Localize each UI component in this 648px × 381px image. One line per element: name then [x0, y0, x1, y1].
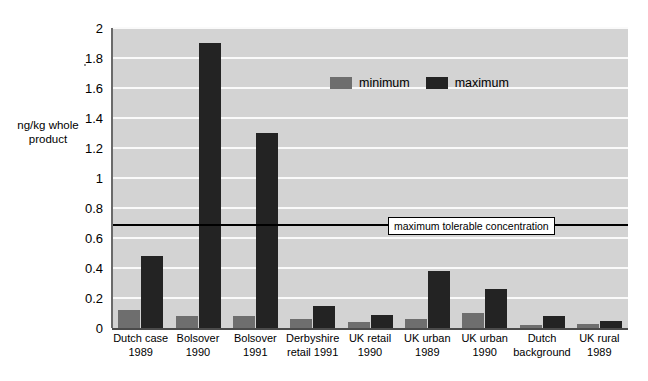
y-tick-label: 0.6 — [60, 231, 108, 246]
bar-maximum-1 — [199, 43, 221, 328]
y-tick-label: 1.4 — [60, 111, 108, 126]
gridline — [112, 27, 628, 29]
y-tick-label: 1.2 — [60, 141, 108, 156]
bar-maximum-4 — [371, 315, 393, 329]
bar-maximum-0 — [141, 256, 163, 328]
y-tick-label: 1.6 — [60, 81, 108, 96]
y-tick-label: 0 — [60, 321, 108, 336]
x-axis-line — [112, 328, 628, 330]
bar-maximum-2 — [256, 133, 278, 328]
y-tick-label: 0.8 — [60, 201, 108, 216]
bar-maximum-8 — [600, 321, 622, 329]
plot-area: maximum tolerable concentrationminimumma… — [112, 28, 628, 328]
bar-maximum-5 — [428, 271, 450, 328]
gridline — [112, 117, 628, 119]
legend-item-label: minimum — [359, 76, 410, 90]
threshold-label: maximum tolerable concentration — [388, 217, 555, 235]
y-tick-label: 0.4 — [60, 261, 108, 276]
legend-item-minimum[interactable]: minimum — [330, 76, 410, 90]
gridline — [112, 297, 628, 299]
gridline — [112, 237, 628, 239]
bar-minimum-5 — [405, 319, 427, 328]
y-tick-label: 1 — [60, 171, 108, 186]
bar-maximum-3 — [313, 306, 335, 329]
x-tick-label-line: UK rural — [563, 332, 635, 346]
y-tick-label: 0.2 — [60, 291, 108, 306]
y-axis-line — [111, 28, 113, 328]
bar-maximum-7 — [543, 316, 565, 328]
gridline — [112, 57, 628, 59]
x-tick-label-8: UK rural1989 — [563, 332, 635, 359]
legend-item-maximum[interactable]: maximum — [426, 76, 509, 90]
bar-minimum-6 — [462, 313, 484, 328]
legend-swatch-icon — [426, 77, 448, 89]
gridline — [112, 207, 628, 209]
bar-maximum-6 — [485, 289, 507, 328]
y-tick-label: 2 — [60, 21, 108, 36]
x-tick-label-line: 1989 — [563, 346, 635, 360]
legend: minimummaximum — [330, 76, 509, 90]
gridline — [112, 147, 628, 149]
bar-minimum-0 — [118, 310, 140, 328]
gridline — [112, 177, 628, 179]
y-tick-label: 1.8 — [60, 51, 108, 66]
bar-minimum-2 — [233, 316, 255, 328]
x-axis-labels: Dutch case1989Bolsover1990Bolsover1991De… — [112, 332, 628, 378]
y-axis-ticks: 21.81.61.41.210.80.60.40.20 — [60, 0, 108, 381]
legend-swatch-icon — [330, 77, 352, 89]
legend-item-label: maximum — [455, 76, 509, 90]
bar-minimum-1 — [176, 316, 198, 328]
bar-chart: ng/kg whole product 21.81.61.41.210.80.6… — [0, 0, 648, 381]
bar-minimum-3 — [290, 319, 312, 328]
gridline — [112, 267, 628, 269]
